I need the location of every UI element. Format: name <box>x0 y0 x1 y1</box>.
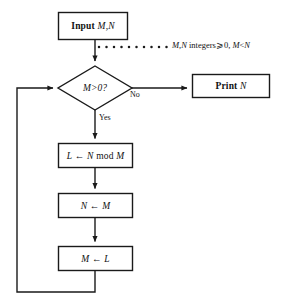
edge-label-yes: Yes <box>99 113 111 122</box>
assign-l-box-shape <box>59 144 133 168</box>
input-box-shape <box>59 13 128 40</box>
annotation-condition: ⩾0, <box>216 40 233 50</box>
annotation-text: integers <box>187 40 216 50</box>
print-box-shape <box>193 75 270 98</box>
edge-label-no: No <box>130 90 140 99</box>
annotation-constraint-rhs: N <box>244 40 250 50</box>
assign-m-box-shape <box>59 247 133 271</box>
annotation-constraint-lhs: M <box>232 40 239 50</box>
assign-n-box-shape <box>59 194 133 218</box>
annotation-label: M,N integers⩾0, M<N <box>172 40 250 50</box>
annotation-vars: M,N <box>172 40 187 50</box>
flowchart-canvas: Input M,N M > 0? Print N L ← N mod M N ←… <box>0 0 292 305</box>
annotation-dotted-leader <box>98 46 168 49</box>
decision-diamond-shape <box>58 66 132 110</box>
